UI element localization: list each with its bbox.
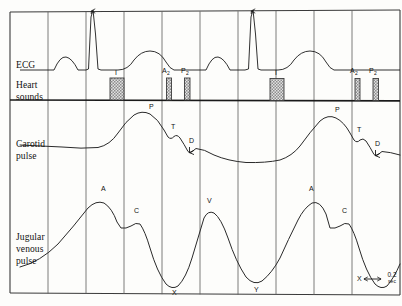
jugular-label-v-wave: V [207, 197, 212, 205]
trace-label-jugular-line3: pulse [16, 256, 37, 267]
heart-sounds-baseline [10, 100, 400, 101]
jugular-label-c-wave: C [342, 207, 347, 215]
sound-bar-p2 [373, 79, 379, 101]
sound-label-a2: A2 [350, 67, 358, 77]
sound-label-p2-sub: 2 [186, 70, 189, 76]
jugular-label-y-descent: Y [254, 286, 259, 294]
trace-label-ecg: ECG [16, 60, 35, 71]
trace-label-carotid-line1: Carotid [16, 139, 45, 150]
trace-label-heart-sounds-line1: Heart [16, 80, 38, 91]
carotid-label-dicrotic: D [375, 140, 380, 148]
sound-bar-a2 [167, 78, 172, 100]
cardiac-cycle-diagram [0, 0, 402, 306]
sound-bar-first [270, 79, 284, 101]
carotid-label-tidal: T [171, 123, 175, 131]
trace-label-jugular-line2: venous [16, 244, 44, 255]
sound-label-a2-sub: 2 [167, 70, 170, 76]
carotid-label-tidal: T [357, 126, 361, 134]
jugular-label-x-descent: X [357, 275, 362, 283]
sound-label-a2: A2 [162, 67, 170, 77]
carotid-label-dicrotic: D [189, 137, 194, 145]
sound-bar-a2 [355, 79, 360, 101]
jugular-label-c-wave: C [134, 207, 139, 215]
sound-bar-first [110, 78, 124, 100]
sound-label-p2: P2 [369, 67, 377, 77]
carotid-label-percussion: P [335, 106, 340, 114]
jugular-label-x-descent: X [172, 289, 177, 297]
carotid-label-percussion: P [149, 103, 154, 111]
sound-bar-p2 [185, 78, 191, 100]
time-scale-unit: sec [382, 279, 402, 284]
trace-label-carotid-line2: pulse [16, 151, 37, 162]
paper-background [0, 0, 402, 306]
jugular-label-a-wave: A [101, 185, 106, 193]
trace-label-jugular-line1: Jugular [16, 232, 45, 243]
sound-label-p2-sub: 2 [374, 70, 377, 76]
trace-label-heart-sounds-line2: sounds [16, 92, 43, 103]
time-scale-text: 0.2sec [382, 272, 402, 284]
sound-label-first: I [115, 69, 117, 77]
jugular-label-a-wave: A [309, 185, 314, 193]
time-scale-value: 0.2 [387, 271, 396, 278]
sound-label-p2: P2 [181, 67, 189, 77]
sound-label-first: I [275, 69, 277, 77]
sound-label-a2-sub: 2 [355, 70, 358, 76]
